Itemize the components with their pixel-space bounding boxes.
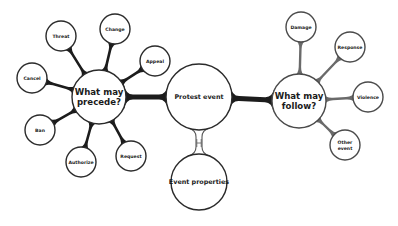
precede-node-authorize-label: Authorize: [68, 160, 93, 165]
event-properties-node-label: Event properties: [169, 178, 229, 186]
precede-node-ban: Ban: [25, 115, 55, 145]
connector-protest-to-follow: [229, 86, 274, 112]
precede-node-threat-label: Threat: [52, 34, 70, 39]
precede-node-change-label: Change: [105, 27, 124, 32]
follow-node-damage: Damage: [286, 12, 316, 42]
precede-node-cancel: Cancel: [17, 63, 47, 93]
precede-node-authorize: Authorize: [66, 147, 96, 177]
protest-event-node-label: Protest event: [174, 93, 223, 101]
precede-node-request-label: Request: [120, 154, 142, 159]
protest-event-node: Protest event: [166, 64, 232, 130]
what-may-precede-hub: What mayprecede?: [72, 70, 126, 124]
what-may-precede-hub-label: precede?: [77, 97, 121, 107]
precede-node-cancel-label: Cancel: [23, 76, 41, 81]
follow-node-response-label: Response: [338, 45, 363, 50]
connector-follow-damage: [294, 40, 307, 76]
connector-precede-to-protest: [124, 85, 168, 109]
event-properties-node: Event properties: [169, 154, 229, 210]
what-may-follow-hub-label: What may: [275, 91, 324, 101]
follow-node-other-event-label: Other: [338, 140, 353, 145]
precede-node-request: Request: [116, 141, 146, 171]
follow-node-response: Response: [335, 32, 365, 62]
precede-node-appeal-label: Appeal: [146, 59, 164, 64]
protest-event-diagram: What mayprecede?What mayfollow?Protest e…: [0, 0, 398, 226]
follow-node-damage-label: Damage: [290, 25, 311, 30]
precede-node-ban-label: Ban: [35, 128, 45, 133]
connector-follow-violence: [324, 92, 356, 106]
connector-precede-change: [98, 40, 118, 74]
precede-node-threat: Threat: [46, 21, 76, 51]
what-may-follow-hub: What mayfollow?: [272, 74, 326, 128]
follow-node-other-event-label: event: [338, 146, 353, 151]
follow-node-violence: Violence: [353, 82, 383, 112]
connector-protest-to-properties: [188, 128, 210, 156]
follow-node-violence-label: Violence: [357, 95, 379, 100]
follow-node-other-event: Otherevent: [330, 130, 360, 160]
what-may-follow-hub-label: follow?: [282, 101, 316, 111]
precede-node-change: Change: [100, 14, 130, 44]
what-may-precede-hub-label: What may: [75, 87, 124, 97]
precede-node-appeal: Appeal: [140, 46, 170, 76]
